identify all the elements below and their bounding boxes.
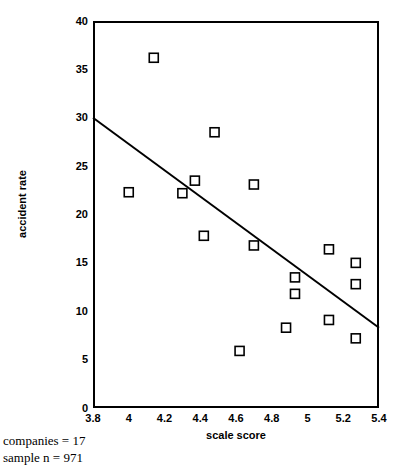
y-axis-tick-labels: 0510152025303540: [58, 0, 88, 475]
x-tick-label: 4.6: [216, 413, 256, 424]
x-tick-label: 4.8: [252, 413, 292, 424]
x-tick-label: 4.4: [180, 413, 220, 424]
annotation-line: companies = 17: [3, 432, 85, 449]
x-tick-label: 5.4: [359, 413, 399, 424]
x-tick-label: 5: [288, 413, 328, 424]
y-tick-label: 30: [62, 112, 88, 123]
scatter-chart-figure: 0510152025303540 3.844.24.44.64.855.25.4…: [0, 0, 406, 475]
x-axis-tick-labels: 3.844.24.44.64.855.25.4: [0, 413, 406, 429]
y-tick-label: 40: [62, 16, 88, 27]
x-tick-label: 4: [109, 413, 149, 424]
plot-area-frame: [93, 21, 379, 408]
chart-annotations: companies = 17sample n = 971: [3, 432, 85, 466]
y-axis-title: accident rate: [16, 154, 28, 254]
x-tick-label: 5.2: [323, 413, 363, 424]
x-tick-label: 3.8: [73, 413, 113, 424]
y-tick-label: 5: [62, 354, 88, 365]
y-tick-label: 25: [62, 161, 88, 172]
annotation-line: sample n = 971: [3, 449, 85, 466]
x-axis-title: scale score: [93, 429, 379, 441]
y-tick-label: 15: [62, 257, 88, 268]
y-tick-label: 20: [62, 209, 88, 220]
y-tick-label: 10: [62, 306, 88, 317]
y-tick-label: 0: [62, 403, 88, 414]
y-tick-label: 35: [62, 64, 88, 75]
x-tick-label: 4.2: [145, 413, 185, 424]
